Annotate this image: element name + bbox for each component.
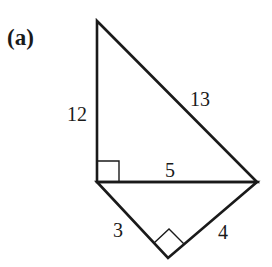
side-label-5: 5 [165, 160, 175, 180]
side-label-13: 13 [190, 89, 210, 109]
triangle-diagram [0, 0, 272, 267]
right-angle-marker-upper [97, 161, 119, 182]
right-angle-marker-lower [154, 229, 184, 244]
upper-triangle [97, 21, 257, 182]
side-label-4: 4 [218, 222, 228, 242]
side-label-3: 3 [113, 220, 123, 240]
side-label-12: 12 [67, 104, 87, 124]
